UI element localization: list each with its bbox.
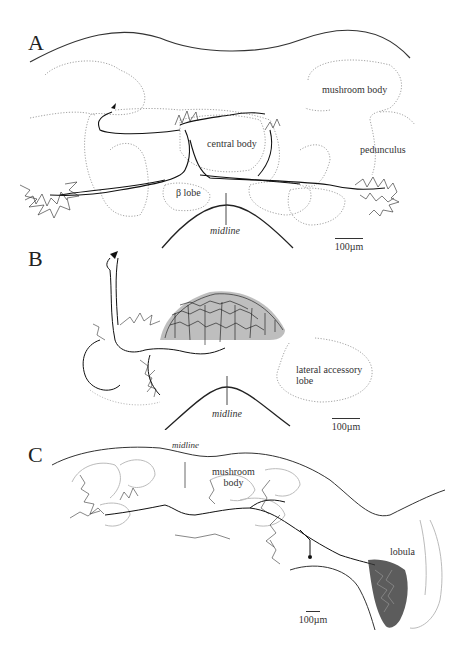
panel-c: C midline mushroom body lobula 100µm [0, 420, 465, 645]
label-lateral-accessory-lobe-line2: lobe [296, 375, 362, 386]
panel-letter-b: B [28, 246, 43, 272]
label-central-body: central body [207, 138, 257, 149]
label-lobula: lobula [390, 546, 415, 557]
panel-a: A mushroom body central body pedunculus … [0, 0, 465, 250]
label-mushroom-body: mushroom body [212, 466, 255, 488]
label-lateral-accessory-lobe: lateral accessory lobe [296, 364, 362, 386]
label-beta-lobe: β lobe [176, 187, 201, 198]
panel-letter-c: C [28, 442, 43, 468]
panel-c-drawing [0, 420, 465, 645]
scale-bar-c: 100µm [306, 611, 320, 625]
label-mushroom-body-line2: body [212, 477, 255, 488]
label-lateral-accessory-lobe-line1: lateral accessory [296, 364, 362, 375]
label-mushroom-body-line1: mushroom [212, 466, 255, 477]
label-pedunculus: pedunculus [360, 144, 406, 155]
label-mushroom-body: mushroom body [322, 84, 387, 95]
scale-bar-label: 100µm [293, 614, 333, 625]
panel-letter-a: A [28, 30, 44, 56]
label-midline: midline [172, 440, 199, 451]
label-midline: midline [212, 408, 242, 419]
panel-a-drawing [0, 0, 465, 250]
panel-b: B lateral accessory lobe midline 100µm [0, 230, 465, 430]
panel-b-drawing [0, 230, 465, 430]
